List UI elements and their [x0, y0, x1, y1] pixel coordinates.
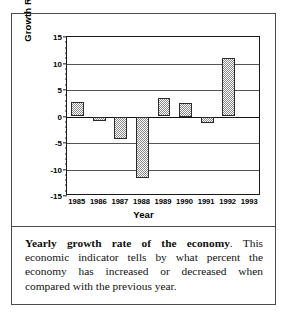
- y-axis-tick-label: -10: [50, 165, 62, 174]
- y-axis-minor-tick: [65, 68, 68, 69]
- figure-caption: Yearly growth rate of the economy. This …: [25, 236, 263, 293]
- y-axis-tick: [63, 63, 67, 64]
- y-axis-minor-tick: [65, 84, 68, 85]
- bar-1992: [222, 58, 235, 117]
- x-axis-tick-label: 1988: [133, 197, 150, 206]
- y-axis-minor-tick: [65, 47, 68, 48]
- y-axis-title: Growth Rate (%): [21, 0, 35, 52]
- y-axis-minor-tick: [65, 185, 68, 186]
- gridline: [67, 170, 259, 171]
- x-axis-tick-labels: 198519861987198819891990199119921993: [66, 197, 260, 209]
- y-axis-minor-tick: [65, 52, 68, 53]
- y-axis-tick: [63, 169, 67, 170]
- y-axis-tick-label: -5: [55, 139, 62, 148]
- y-axis-minor-tick: [65, 132, 68, 133]
- y-axis-minor-tick: [65, 127, 68, 128]
- y-axis-minor-tick: [65, 111, 68, 112]
- y-axis-minor-tick: [65, 105, 68, 106]
- y-axis-minor-tick: [65, 42, 68, 43]
- y-axis-tick: [63, 36, 67, 37]
- y-axis-tick-label: -15: [50, 192, 62, 201]
- bar-1990: [179, 103, 192, 116]
- y-axis-minor-tick: [65, 153, 68, 154]
- y-axis-minor-tick: [65, 100, 68, 101]
- x-axis-tick-label: 1993: [241, 197, 258, 206]
- x-axis-tick-label: 1989: [155, 197, 172, 206]
- y-axis-minor-tick: [65, 174, 68, 175]
- y-axis-minor-tick: [65, 164, 68, 165]
- caption-divider: [12, 226, 275, 227]
- y-axis-tick-label: 10: [53, 59, 62, 68]
- y-axis-minor-tick: [65, 121, 68, 122]
- bar-1986: [93, 117, 106, 121]
- bar-chart: Growth Rate (%) 151050-5-10-15 198519861…: [12, 14, 275, 226]
- bar-1991: [201, 117, 214, 124]
- figure-frame: Growth Rate (%) 151050-5-10-15 198519861…: [11, 13, 276, 305]
- y-axis-minor-tick: [65, 74, 68, 75]
- x-axis-tick-label: 1986: [90, 197, 107, 206]
- bar-1988: [136, 117, 149, 178]
- y-axis-tick-label: 0: [58, 112, 62, 121]
- y-axis-minor-tick: [65, 148, 68, 149]
- y-axis-minor-tick: [65, 180, 68, 181]
- x-axis-tick-label: 1992: [219, 197, 236, 206]
- y-axis-tick: [63, 116, 67, 117]
- y-axis-tick-label: 15: [53, 33, 62, 42]
- x-axis-title: Year: [12, 209, 275, 220]
- plot-area: 151050-5-10-15: [66, 36, 260, 195]
- bar-1987: [114, 117, 127, 139]
- y-axis-minor-tick: [65, 158, 68, 159]
- x-axis-tick-label: 1991: [198, 197, 215, 206]
- y-axis-tick: [63, 89, 67, 90]
- bar-1985: [71, 102, 84, 116]
- y-axis-minor-tick: [65, 190, 68, 191]
- y-axis-minor-tick: [65, 58, 68, 59]
- x-axis-tick-label: 1985: [68, 197, 85, 206]
- x-axis-tick-label: 1990: [176, 197, 193, 206]
- y-axis-minor-tick: [65, 79, 68, 80]
- x-axis-tick-label: 1987: [111, 197, 128, 206]
- gridline: [67, 143, 259, 144]
- y-axis-minor-tick: [65, 137, 68, 138]
- y-axis-tick: [63, 142, 67, 143]
- caption-lead: Yearly growth rate of the economy: [25, 237, 230, 249]
- y-axis-minor-tick: [65, 95, 68, 96]
- y-axis-tick-label: 5: [58, 86, 62, 95]
- bar-1989: [158, 98, 171, 117]
